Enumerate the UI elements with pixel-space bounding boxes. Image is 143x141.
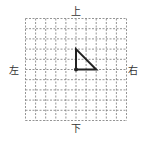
rotation-center-dot — [74, 68, 78, 72]
rotation-grid-diagram: 上 下 左 右 — [0, 0, 143, 141]
label-bottom: 下 — [71, 123, 81, 134]
label-top: 上 — [71, 6, 81, 17]
label-right: 右 — [128, 64, 138, 76]
label-left: 左 — [9, 64, 19, 76]
